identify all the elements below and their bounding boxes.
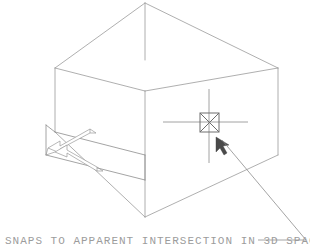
- dimension-arrow-lower: [55, 145, 97, 171]
- wireframe-box: [55, 3, 278, 217]
- plate-edge-top-diagonal: [46, 125, 55, 132]
- apparent-intersection-snap-marker: [200, 113, 219, 132]
- box-edge-bottom-right: [145, 155, 278, 217]
- box-edge-top-front-left: [55, 68, 145, 91]
- caption-label: SNAPS TO APPARENT INTERSECTION IN 3D SPA…: [5, 235, 310, 247]
- leader-diagonal-line: [222, 140, 306, 240]
- dimension-arrow-upper-head: [90, 129, 96, 133]
- box-edge-top-back-left: [55, 3, 145, 68]
- cad-drawing-canvas: SNAPS TO APPARENT INTERSECTION IN 3D SPA…: [0, 0, 310, 252]
- cad-drawing-svg: SNAPS TO APPARENT INTERSECTION IN 3D SPA…: [0, 0, 310, 252]
- caption-leader: [222, 140, 306, 240]
- box-edge-top-front-right: [145, 68, 278, 91]
- box-edge-top-back-right: [145, 3, 278, 68]
- dimension-arrow-upper: [48, 129, 90, 153]
- dimension-extension-tick-2: [46, 152, 55, 155]
